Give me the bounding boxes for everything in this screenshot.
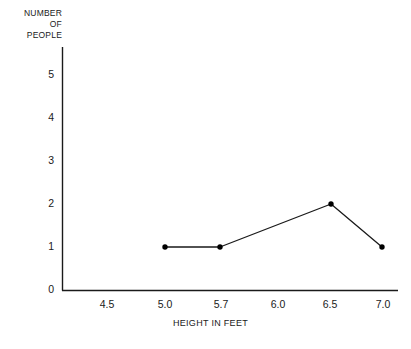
x-axis-title-text: HEIGHT IN FEET bbox=[173, 318, 248, 328]
x-tick-label-5-0: 5.0 bbox=[145, 299, 185, 310]
x-axis-title: HEIGHT IN FEET bbox=[0, 318, 411, 328]
data-point-marker bbox=[328, 201, 333, 206]
x-tick-label-7-0: 7.0 bbox=[363, 299, 403, 310]
data-point-marker bbox=[217, 244, 222, 249]
data-line-series-1 bbox=[165, 204, 382, 247]
x-tick-label-6-0: 6.0 bbox=[258, 299, 298, 310]
line-chart: NUMBER OF PEOPLE 5 4 3 2 1 0 4.5 5.0 5.7… bbox=[0, 0, 411, 349]
x-tick-label-4-5: 4.5 bbox=[87, 299, 127, 310]
data-point-marker bbox=[162, 244, 167, 249]
x-tick-label-5-7: 5.7 bbox=[201, 299, 241, 310]
plot-area bbox=[0, 0, 411, 349]
x-tick-label-6-5: 6.5 bbox=[310, 299, 350, 310]
data-point-marker bbox=[379, 244, 384, 249]
